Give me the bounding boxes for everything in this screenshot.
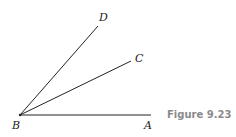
label-c: C — [135, 52, 144, 65]
ray-bc — [20, 61, 131, 115]
label-a: A — [143, 119, 152, 132]
label-b: B — [11, 119, 20, 132]
ray-bd — [20, 26, 98, 115]
vertex-b-dot — [19, 114, 21, 116]
label-d: D — [98, 11, 108, 24]
figure-caption: Figure 9.23 — [167, 109, 231, 120]
